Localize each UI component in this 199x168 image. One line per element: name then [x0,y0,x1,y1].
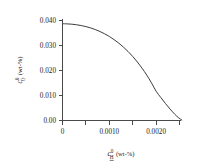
figure-background [0,0,199,168]
y-tick-label: 0.040 [40,17,57,25]
x-axis-unit: (wt-%) [116,150,135,158]
y-axis-subscript: O [20,77,26,81]
chart-figure: 0.040 0.030 0.020 0.010 0.00 0 0.0010 0.… [0,0,199,168]
x-axis-subscript: H [110,154,114,160]
y-tick-label: 0.030 [40,42,57,50]
y-tick-label: 0.020 [40,67,57,75]
x-tick-label: 0 [61,128,65,136]
plot-canvas: 0.040 0.030 0.020 0.010 0.00 0 0.0010 0.… [0,0,199,168]
y-tick-label: 0.010 [40,92,57,100]
y-axis-unit: (wt-%) [16,56,24,75]
x-tick-label: 0.0010 [99,128,119,136]
y-tick-label: 0.00 [43,117,56,125]
x-tick-label: 0.0020 [146,128,166,136]
